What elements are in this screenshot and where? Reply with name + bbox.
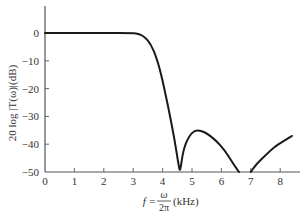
x-axis-label-unit: (kHz) [173,195,199,208]
ticks: 0123456780−10−20−30−40−50 [22,27,284,187]
x-tick-label: 8 [277,175,283,187]
x-tick-label: 4 [160,175,166,187]
response-curve [45,33,292,172]
x-tick-label: 1 [72,175,78,187]
y-axis-label: 20 log |T(ω)|(dB) [6,64,19,141]
response-line [251,136,292,172]
y-tick-label: −20 [22,83,40,95]
x-axis-label-num: ω [160,189,167,200]
x-axis-label-den: 2π [159,202,169,213]
x-tick-label: 6 [219,175,225,187]
x-tick-label: 2 [101,175,107,187]
x-tick-label: 7 [248,175,254,187]
x-axis-label-lhs: f = [143,195,156,207]
y-tick-label: −30 [22,110,40,122]
x-tick-label: 5 [189,175,195,187]
x-tick-label: 0 [42,175,48,187]
response-line [45,33,239,172]
y-tick-label: −50 [22,166,40,178]
x-tick-label: 3 [130,175,136,187]
filter-response-chart: 0123456780−10−20−30−40−50 20 log |T(ω)|(… [0,0,307,217]
y-tick-label: 0 [34,27,40,39]
y-tick-label: −40 [22,138,40,150]
y-tick-label: −10 [22,55,40,67]
axes [45,6,300,172]
